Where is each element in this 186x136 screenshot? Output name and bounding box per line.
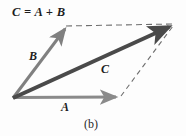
vector-arrow-a — [13, 97, 116, 98]
construction-lines-group — [66, 24, 173, 96]
vector-c-label: C — [101, 63, 109, 75]
vector-a-label: A — [61, 101, 69, 113]
equation-label: C = A + B — [12, 6, 65, 19]
vector-b-label: B — [29, 50, 37, 62]
figure-caption: (b) — [84, 118, 98, 130]
dashed-line-top — [66, 24, 172, 26]
vector-addition-figure: C = A + B B C A (b) — [0, 0, 186, 136]
vector-diagram-canvas — [0, 0, 186, 136]
